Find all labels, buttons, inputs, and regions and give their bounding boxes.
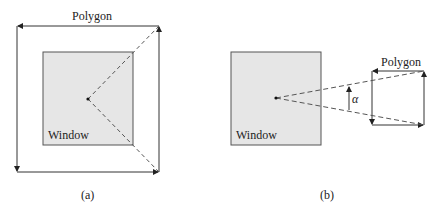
caption-a: (a) xyxy=(81,188,94,202)
caption-b: (b) xyxy=(320,188,334,202)
panel-b: Window Polygon α (b) xyxy=(231,52,424,202)
test-point-b xyxy=(274,96,277,99)
angle-label: α xyxy=(352,92,359,106)
window-label-a: Window xyxy=(48,128,89,142)
window-label-b: Window xyxy=(236,128,277,142)
polygon-label-b: Polygon xyxy=(381,55,421,69)
polygon-label-a: Polygon xyxy=(72,9,112,23)
panel-a: Window Polygon (a) xyxy=(17,9,159,202)
test-point-a xyxy=(86,97,89,100)
diagram-canvas: Window Polygon (a) Window Polygon xyxy=(0,0,445,210)
